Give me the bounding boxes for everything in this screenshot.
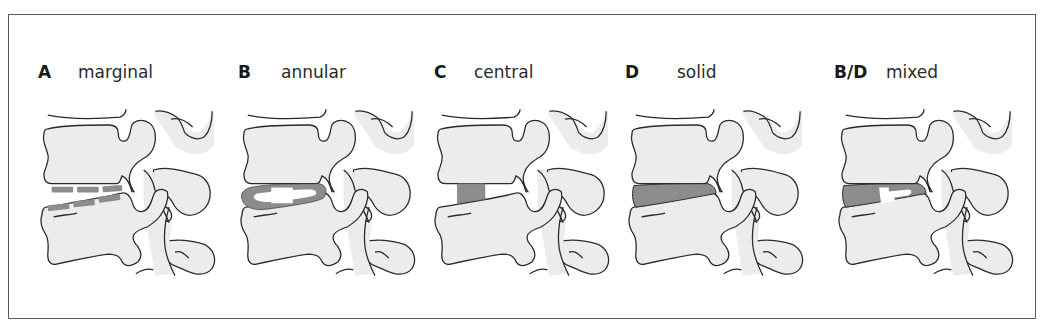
spine-illustration-mixed — [836, 105, 1016, 280]
panel-pattern-name: marginal — [78, 62, 153, 82]
panel-annular: B annular — [200, 0, 400, 329]
panel-letter: A — [38, 62, 51, 82]
spine-illustration-central — [432, 105, 612, 280]
panel-pattern-name: solid — [677, 62, 717, 82]
panel-letter: B — [238, 62, 251, 82]
panel-letter: D — [625, 62, 639, 82]
panel-pattern-name: mixed — [886, 62, 938, 82]
panel-letter: B/D — [834, 62, 867, 82]
panel-marginal: A marginal — [0, 0, 200, 329]
panel-central: C central — [396, 0, 596, 329]
panel-pattern-name: annular — [281, 62, 346, 82]
spine-illustration-annular — [238, 105, 418, 280]
panel-letter: C — [434, 62, 446, 82]
panel-pattern-name: central — [474, 62, 533, 82]
spine-illustration-marginal — [38, 105, 218, 280]
panel-solid: D solid — [588, 0, 788, 329]
spine-illustration-solid — [626, 105, 806, 280]
panel-mixed: B/D mixed — [796, 0, 996, 329]
